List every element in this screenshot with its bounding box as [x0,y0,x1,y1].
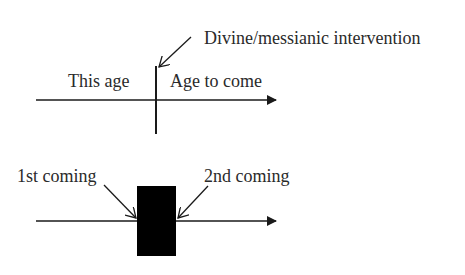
bottom-timeline: 1st coming 2nd coming [17,166,290,256]
age-to-come-label: Age to come [170,71,262,91]
eschatology-diagram: This age Age to come Divine/messianic in… [0,0,465,275]
this-age-label: This age [68,71,129,91]
intervention-pointer-arrow [159,37,191,67]
second-coming-label: 2nd coming [204,166,290,186]
divine-intervention-label: Divine/messianic intervention [204,28,420,48]
overlap-period-block [137,186,176,256]
top-timeline: This age Age to come Divine/messianic in… [36,28,420,134]
second-coming-pointer-arrow [178,186,208,218]
first-coming-pointer-arrow [104,185,136,218]
first-coming-label: 1st coming [17,166,97,186]
